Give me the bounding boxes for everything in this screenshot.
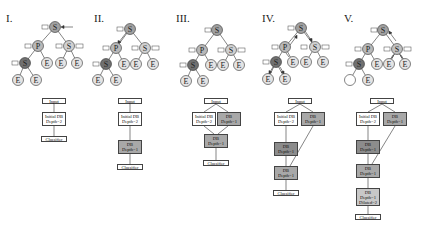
svg-text:P: P	[283, 43, 288, 52]
initial-db-box: Initial DB Depth=2	[42, 112, 66, 126]
svg-text:S: S	[357, 60, 361, 69]
svg-text:E: E	[221, 61, 226, 70]
svg-text:E: E	[387, 60, 392, 69]
svg-text:S: S	[299, 24, 303, 33]
input-box: Input	[370, 98, 394, 104]
input-box: Input	[288, 98, 312, 104]
svg-text:E: E	[45, 59, 50, 68]
svg-text:E: E	[16, 76, 21, 85]
db-box: DB Depth=1	[301, 112, 325, 126]
initial-db-box: Initial DB Depth=2	[356, 112, 380, 126]
svg-text:E: E	[122, 60, 127, 69]
svg-text:S: S	[67, 42, 71, 51]
svg-text:S: S	[274, 58, 278, 67]
svg-text:E: E	[266, 75, 271, 84]
svg-text:E: E	[184, 77, 189, 86]
db-box: DB Depth=1	[356, 140, 380, 154]
svg-text:E: E	[321, 58, 326, 67]
svg-text:E: E	[237, 61, 242, 70]
svg-text:S: S	[128, 25, 132, 34]
svg-text:S: S	[215, 26, 219, 35]
db-box: DB Depth=1	[274, 142, 298, 156]
panel-4: IV. S PS SEEE EE	[256, 0, 340, 233]
panel-5: V. S PS SEEE E	[338, 0, 422, 233]
svg-text:S: S	[395, 45, 399, 54]
svg-text:E: E	[75, 59, 80, 68]
panel-3: III. S PS SEEE EE Input Initial DB Dept	[170, 0, 254, 233]
input-box: Input	[42, 98, 66, 104]
svg-text:E: E	[59, 59, 64, 68]
svg-text:P: P	[366, 45, 371, 54]
initial-db-box: Initial DB Depth=2	[274, 112, 298, 126]
initial-db-box: Initial DB Depth=2	[192, 112, 216, 126]
classifier-box: Classifier	[41, 136, 67, 142]
db-box: DB Depth=1	[274, 166, 298, 180]
svg-text:E: E	[304, 58, 309, 67]
db-box: DB Depth=1	[383, 112, 407, 126]
svg-text:S: S	[191, 61, 195, 70]
svg-text:E: E	[283, 75, 288, 84]
dilated-db-box: DB Depth=1 Dilated=2	[356, 188, 380, 206]
input-box: Input	[204, 98, 228, 104]
svg-text:E: E	[114, 76, 119, 85]
svg-text:E: E	[151, 60, 156, 69]
svg-text:S: S	[23, 59, 27, 68]
panel-2: II. S PS SEEE EE Input Initial DB Depth=…	[86, 0, 170, 233]
svg-text:E: E	[403, 60, 408, 69]
svg-text:E: E	[209, 61, 214, 70]
panel-1: I. S PS SEEE EE Input Initial DB Depth=2…	[0, 0, 84, 233]
svg-text:S: S	[229, 46, 233, 55]
svg-text:P: P	[36, 42, 41, 51]
classifier-box: Classifier	[355, 214, 381, 220]
svg-text:E: E	[134, 60, 139, 69]
initial-db-box: Initial DB Depth=2	[118, 112, 142, 126]
svg-text:E: E	[375, 60, 380, 69]
svg-text:E: E	[96, 76, 101, 85]
db-box: DB Depth=1	[204, 134, 228, 148]
svg-text:P: P	[114, 44, 119, 53]
svg-text:S: S	[53, 23, 57, 32]
classifier-box: Classifier	[117, 164, 143, 170]
svg-text:P: P	[200, 46, 205, 55]
svg-text:E: E	[366, 76, 371, 85]
svg-text:E: E	[201, 77, 206, 86]
classifier-box: Classifier	[203, 160, 229, 166]
svg-text:S: S	[381, 26, 385, 35]
classifier-box: Classifier	[273, 190, 299, 196]
db-box: DB Depth=1	[217, 112, 241, 126]
db-box: DB Depth=1	[118, 140, 142, 154]
svg-text:E: E	[291, 58, 296, 67]
tree-diagram: S PS SEEE EE	[256, 0, 340, 233]
svg-text:E: E	[34, 76, 39, 85]
db-box: DB Depth=1	[356, 164, 380, 178]
svg-text:S: S	[143, 44, 147, 53]
input-box: Input	[118, 98, 142, 104]
svg-text:S: S	[104, 60, 108, 69]
tree-diagram: S PS SEEE E	[338, 0, 422, 233]
svg-text:S: S	[313, 43, 317, 52]
